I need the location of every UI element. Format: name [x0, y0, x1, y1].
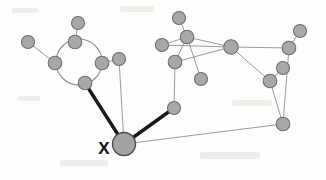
graph-node[interactable] — [282, 41, 296, 55]
graph-edge — [119, 59, 124, 144]
node-labels: X — [98, 139, 110, 158]
graph-node[interactable] — [156, 39, 169, 52]
graph-edge — [231, 47, 270, 81]
node-label-x: X — [98, 139, 110, 158]
graph-edge — [283, 48, 289, 124]
graph-node[interactable] — [263, 74, 277, 88]
graph-node[interactable] — [22, 36, 35, 49]
graph-node[interactable] — [168, 55, 182, 69]
graph-canvas: X — [0, 0, 326, 180]
graph-node[interactable] — [180, 30, 194, 44]
graph-node[interactable] — [168, 102, 181, 115]
graph-node[interactable] — [224, 40, 238, 54]
graph-node[interactable] — [113, 53, 126, 66]
graph-node[interactable] — [68, 35, 82, 49]
nodes — [22, 12, 307, 156]
graph-node[interactable] — [173, 12, 186, 25]
graph-node[interactable] — [195, 73, 208, 86]
graph-node[interactable] — [95, 56, 109, 70]
graph-node-highlighted[interactable] — [113, 133, 136, 156]
graph-node[interactable] — [277, 62, 290, 75]
graph-edge — [175, 47, 231, 62]
graph-node[interactable] — [48, 56, 62, 70]
graph-node[interactable] — [72, 17, 85, 30]
graph-node[interactable] — [294, 25, 307, 38]
graph-figure: X — [0, 0, 326, 180]
graph-node[interactable] — [276, 117, 290, 131]
graph-node[interactable] — [78, 76, 92, 90]
thin-edges — [28, 18, 300, 144]
graph-edge — [162, 45, 231, 47]
graph-edge — [231, 47, 289, 48]
